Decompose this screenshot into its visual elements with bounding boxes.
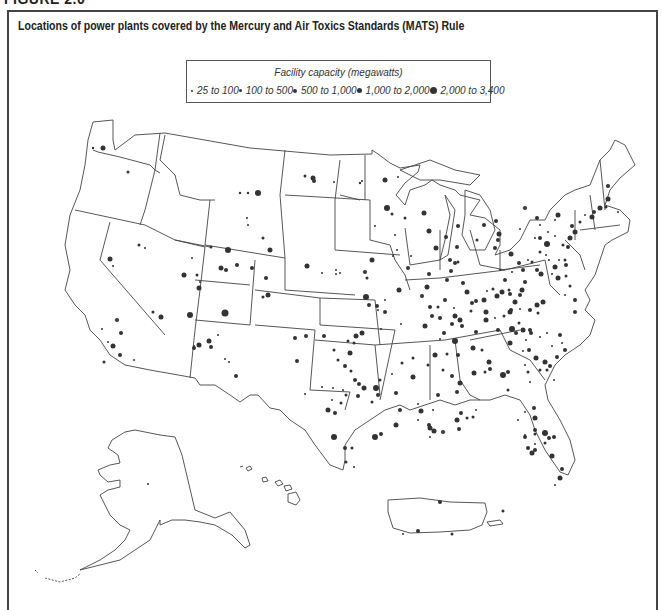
us-outline (65, 120, 635, 475)
virgin-islands (487, 520, 503, 526)
puerto-rico (388, 498, 487, 533)
hawaii-islands (240, 466, 300, 505)
lake-michigan (440, 195, 455, 260)
alaska-outline (80, 430, 250, 570)
aleutians (35, 570, 80, 582)
lake-superior (400, 160, 480, 185)
power-plant-dots (92, 146, 619, 487)
michigan-lp (462, 190, 495, 250)
